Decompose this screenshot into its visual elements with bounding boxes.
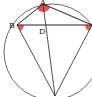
segment-ac [43,4,92,25]
segment-ab [17,4,43,25]
angle-marker-c [85,25,92,31]
label-e: E [52,95,58,97]
label-d: D [39,27,45,36]
label-a: A [39,0,46,7]
angle-marker-b [17,25,24,31]
segment-be [17,25,55,96]
label-b: B [9,21,15,30]
geometry-diagram: A B D E [0,0,92,97]
segment-ae [43,4,55,96]
